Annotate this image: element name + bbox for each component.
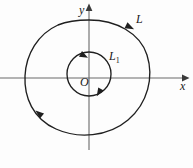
outer-curve-label: L [136,13,143,25]
y-axis-arrowhead [86,4,93,12]
inner-curve-arrowhead-bottom-right [94,87,104,98]
math-figure: y x O L L1 [0,0,193,168]
inner-curve-label: L1 [109,50,120,65]
x-axis-label: x [180,80,185,92]
origin-label: O [80,76,89,88]
x-axis [0,74,190,81]
inner-curve-label-base: L [109,49,116,63]
y-axis-label: y [79,4,84,16]
outer-curve-arrowhead-top-right [125,22,136,32]
figure-canvas [0,0,193,168]
inner-curve-label-subscript: 1 [116,56,120,65]
